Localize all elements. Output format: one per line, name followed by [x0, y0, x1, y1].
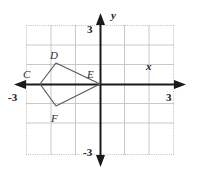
vertex-label-c: C [23, 68, 31, 80]
vertex-label-d: D [49, 49, 58, 61]
x-axis-label: x [145, 60, 152, 72]
x-axis-positive-tick-label: 3 [166, 91, 172, 103]
coordinate-plane-figure: x y 3 -3 3 -3 C D E F [0, 0, 201, 171]
vertex-label-f: F [50, 112, 58, 124]
graph-canvas: x y 3 -3 3 -3 C D E F [0, 0, 201, 171]
y-axis-negative-tick-label: -3 [83, 146, 93, 158]
vertex-label-e: E [86, 68, 94, 80]
y-axis-label: y [109, 9, 116, 21]
y-axis-positive-tick-label: 3 [87, 23, 93, 35]
y-axis [96, 13, 105, 167]
x-axis-negative-tick-label: -3 [8, 91, 18, 103]
